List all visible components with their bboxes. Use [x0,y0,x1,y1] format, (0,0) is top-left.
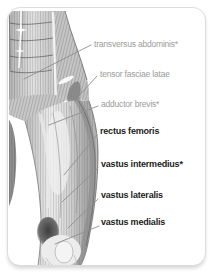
label-vastus-medialis: vastus medialis [101,217,165,227]
label-tensor-fasciae-latae: tensor fasciae latae [100,69,170,79]
page-root: transversus abdominis* tensor fasciae la… [0,0,213,279]
label-adductor-brevis: adductor brevis* [101,99,159,109]
figure-card: transversus abdominis* tensor fasciae la… [7,7,206,266]
label-transversus-abdominis: transversus abdominis* [94,39,178,49]
label-vastus-intermedius: vastus intermedius* [101,159,183,169]
label-vastus-lateralis: vastus lateralis [101,190,163,200]
label-rectus-femoris: rectus femoris [100,126,159,136]
